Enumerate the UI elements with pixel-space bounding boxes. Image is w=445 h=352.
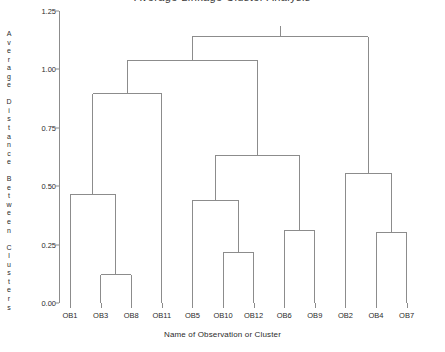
y-axis-tick-mark [55,244,59,245]
leaf-label-ob11: OB11 [152,311,171,320]
leaf-label-ob3: OB3 [93,311,108,320]
x-axis-tick-mark [407,303,408,308]
y-axis-tick-mark [55,11,59,12]
leaf-label-ob2: OB2 [338,311,353,320]
x-axis-tick-mark [70,303,71,308]
dendrogram-tree [0,0,445,352]
leaf-label-ob9: OB9 [307,311,322,320]
x-axis-tick-mark [315,303,316,308]
x-axis-tick-mark [223,303,224,308]
leaf-label-ob4: OB4 [368,311,383,320]
leaf-label-ob6: OB6 [277,311,292,320]
leaf-label-ob10: OB10 [213,311,232,320]
x-axis-tick-mark [131,303,132,308]
y-axis-tick-mark [55,127,59,128]
x-axis-tick-mark [192,303,193,308]
x-axis-title: Name of Observation or Cluster [0,330,445,339]
leaf-label-ob5: OB5 [185,311,200,320]
y-axis-tick-mark [55,69,59,70]
leaf-label-ob7: OB7 [399,311,414,320]
x-axis-tick-mark [284,303,285,308]
x-axis-tick-mark [162,303,163,308]
leaf-label-ob12: OB12 [244,311,263,320]
leaf-label-ob8: OB8 [124,311,139,320]
dendrogram-figure: Average Linkage Cluster Analysis Average… [0,0,445,352]
dendrogram-plot-area [0,0,445,352]
leaf-label-ob1: OB1 [62,311,77,320]
x-axis-tick-mark [376,303,377,308]
y-axis-tick-mark [55,186,59,187]
x-axis-tick-mark [345,303,346,308]
x-axis-tick-mark [254,303,255,308]
x-axis-tick-mark [101,303,102,308]
y-axis-tick-mark [55,303,59,304]
